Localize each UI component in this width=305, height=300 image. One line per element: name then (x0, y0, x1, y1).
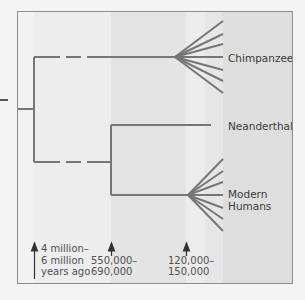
outer-tick-mark (0, 99, 8, 101)
time-label-2-line1: 550,000– (91, 255, 137, 267)
phylogeny-diagram-frame: Chimpanzees Neanderthals Modern Humans 4… (17, 11, 293, 284)
label-modern-humans-line1: Modern (228, 188, 267, 200)
time-label-3-line2: 150,000 (168, 266, 214, 278)
time-label-2-line2: 690,000 (91, 266, 137, 278)
time-label-3-line1: 120,000– (168, 255, 214, 267)
label-neanderthals: Neanderthals (228, 120, 293, 132)
time-label-2: 550,000– 690,000 (91, 255, 137, 278)
time-label-1: 4 million– 6 million years ago (41, 243, 90, 278)
label-modern-humans-line2: Humans (228, 200, 271, 212)
time-label-1-line3: years ago (41, 266, 90, 278)
time-label-1-line1: 4 million– (41, 243, 90, 255)
time-label-3: 120,000– 150,000 (168, 255, 214, 278)
time-label-1-line2: 6 million (41, 255, 90, 267)
label-chimpanzees: Chimpanzees (228, 52, 293, 64)
